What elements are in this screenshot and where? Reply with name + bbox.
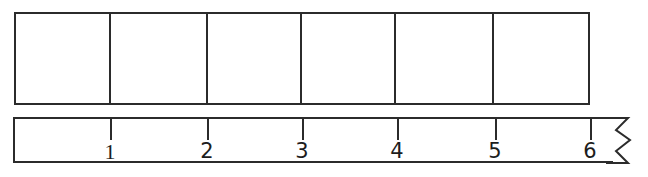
number-line-tick-label: 2 (187, 140, 227, 163)
number-line-tick-label: 3 (282, 140, 322, 163)
number-line-tick (110, 119, 112, 140)
bar-model-cell (208, 14, 302, 103)
bar-model-cell (111, 14, 207, 103)
number-line-break-zigzag-icon (606, 114, 640, 166)
number-line-tick-label: 5 (475, 140, 515, 163)
worksheet-canvas: 1 2 3 4 5 6 (0, 0, 648, 177)
number-line-tick (590, 119, 592, 140)
number-line-tick (302, 119, 304, 140)
bar-model-cell (16, 14, 111, 103)
number-line: 1 2 3 4 5 6 (13, 117, 613, 163)
number-line-tick-label: 1 (90, 140, 130, 163)
number-line-tick (207, 119, 209, 140)
number-line-tick-label: 6 (570, 140, 610, 163)
bar-model-cell (396, 14, 493, 103)
number-line-tick (397, 119, 399, 140)
number-line-tick (495, 119, 497, 140)
bar-model-cell (302, 14, 396, 103)
number-line-tick-label: 4 (377, 140, 417, 163)
bar-model (14, 12, 590, 105)
bar-model-cell (494, 14, 588, 103)
